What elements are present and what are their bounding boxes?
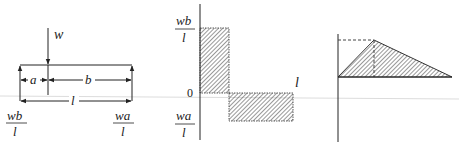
dimension-b-label: b	[85, 72, 92, 87]
shear-length-label: l	[295, 75, 299, 90]
moment-diagram	[338, 34, 452, 142]
right-reaction-denominator: l	[121, 124, 125, 139]
positive-shear-block	[200, 28, 229, 93]
left-reaction-numerator: wb	[7, 108, 23, 123]
diagram-canvas: w a b l wb l wa l wb l 0	[0, 0, 459, 147]
shear-bottom-denominator: l	[182, 125, 186, 140]
shear-bottom-numerator: wa	[176, 108, 192, 123]
load-label: w	[54, 27, 64, 42]
shear-top-numerator: wb	[176, 13, 192, 28]
dimension-a-label: a	[30, 72, 37, 87]
shear-zero-label: 0	[187, 86, 193, 100]
shear-diagram: wb l 0 l wa l	[175, 4, 299, 140]
left-reaction-denominator: l	[13, 124, 17, 139]
dimension-l-label: l	[71, 93, 75, 108]
moment-triangle	[338, 40, 452, 77]
beam-diagram: w a b l wb l wa l	[6, 27, 134, 139]
negative-shear-block	[229, 93, 293, 121]
right-reaction-numerator: wa	[115, 108, 131, 123]
shear-top-denominator: l	[182, 30, 186, 45]
